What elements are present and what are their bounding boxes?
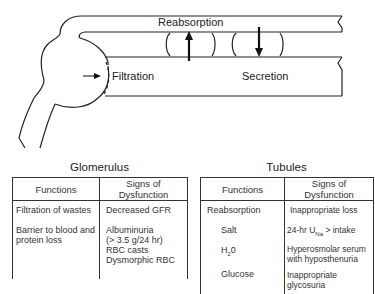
filtration-label: Filtration <box>112 70 154 82</box>
sign-item: Hyperosmolar serum <box>287 244 370 254</box>
function-item: Reabsorption <box>207 205 281 215</box>
glomerulus-signs-cell: Decreased GFR Albuminuria (> 3.5 g/24 hr… <box>100 201 188 280</box>
sign-item: Dysmorphic RBC <box>106 255 184 265</box>
sign-item: Albuminuria <box>106 225 184 235</box>
function-item-water: H20 <box>207 245 281 259</box>
function-item: Barrier to blood and <box>16 225 96 235</box>
sign-item: (> 3.5 g/24 hr) <box>106 235 184 245</box>
glomerulus-table: Functions Signs of Dysfunction Filtratio… <box>12 177 188 279</box>
function-item-salt: Salt <box>207 225 281 235</box>
glomerulus-title: Glomerulus <box>12 161 187 173</box>
header-functions: Functions <box>13 178 100 201</box>
sign-item: Inappropriate loss <box>287 205 370 215</box>
header-functions: Functions <box>201 178 285 201</box>
reabsorption-label: Reabsorption <box>158 16 223 28</box>
sign-item: glycosuria <box>287 280 370 290</box>
sign-item: Decreased GFR <box>106 205 184 215</box>
sign-item: RBC casts <box>106 245 184 255</box>
sign-item: with hyposthenuria <box>287 254 370 264</box>
sign-item-sodium: 24-hr UNa > intake <box>287 225 370 239</box>
function-item: protein loss <box>16 235 96 245</box>
tubules-signs-cell: Inappropriate loss 24-hr UNa > intake Hy… <box>285 201 374 294</box>
function-item: Filtration of wastes <box>16 205 96 215</box>
secretion-label: Secretion <box>242 70 288 82</box>
tubules-functions-cell: Reabsorption Salt H20 Glucose <box>201 201 285 294</box>
nephron-diagram: Reabsorption Filtration Secretion <box>0 0 375 150</box>
tubules-title: Tubules <box>200 161 373 173</box>
glomerulus-functions-cell: Filtration of wastes Barrier to blood an… <box>13 201 100 280</box>
function-item-glucose: Glucose <box>207 269 281 279</box>
sign-item: Inappropriate <box>287 270 370 280</box>
header-signs: Signs of Dysfunction <box>100 178 188 201</box>
tubules-table: Functions Signs of Dysfunction Reabsorpt… <box>200 177 374 294</box>
header-signs: Signs of Dysfunction <box>285 178 374 201</box>
